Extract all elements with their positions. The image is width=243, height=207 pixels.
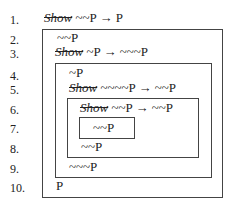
line-num: 1. — [10, 13, 34, 27]
show-keyword: Show — [55, 44, 83, 59]
proof-line: Show ~~P → ~~P — [80, 101, 173, 115]
formula: ~~~~P → ~~P — [100, 80, 176, 95]
proof-line: ~~P — [57, 31, 78, 45]
proof-line: P — [56, 179, 63, 193]
formula: ~~~P — [69, 159, 97, 174]
proof-line: ~~P — [93, 121, 114, 135]
line-num: 9. — [10, 162, 34, 176]
formula: P — [56, 178, 63, 193]
line-num: 8. — [10, 142, 34, 156]
line-num: 5. — [10, 83, 34, 97]
formula: ~~P → ~~P — [111, 100, 173, 115]
proof-line: Show ~P → ~~~P — [55, 45, 148, 59]
proof-line: ~~~P — [69, 160, 97, 174]
line-num: 6. — [10, 103, 34, 117]
line-num: 2. — [10, 33, 34, 47]
formula: ~~P — [81, 139, 102, 154]
proof-line: ~~P — [81, 140, 102, 154]
show-keyword: Show — [44, 10, 72, 25]
proof-line: Show ~~~~P → ~~P — [69, 81, 176, 95]
line-num: 7. — [10, 122, 34, 136]
show-keyword: Show — [80, 100, 108, 115]
show-keyword: Show — [69, 80, 97, 95]
formula: ~~P — [93, 120, 114, 135]
line-num: 3. — [10, 47, 34, 61]
proof-line: ~P — [69, 66, 83, 80]
formula: ~~P — [57, 30, 78, 45]
formula: ~P — [69, 65, 83, 80]
formula: ~~P → P — [75, 10, 123, 25]
line-num: 10. — [10, 181, 34, 195]
formula: ~P → ~~~P — [86, 44, 148, 59]
line-num: 4. — [10, 69, 34, 83]
proof-line: Show ~~P → P — [44, 11, 123, 25]
